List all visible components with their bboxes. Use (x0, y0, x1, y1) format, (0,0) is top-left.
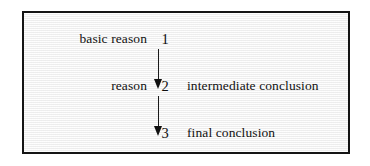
row-2-right-label: intermediate conclusion (183, 78, 348, 94)
diagram-row-3: 3 final conclusion (24, 122, 348, 144)
diagram-row-2: reason 2 intermediate conclusion (24, 75, 348, 97)
row-1-node-number: 1 (147, 31, 183, 48)
diagram-row-1: basic reason 1 (24, 28, 348, 50)
row-3-right-label: final conclusion (183, 125, 348, 141)
figure-canvas: basic reason 1 reason 2 intermediate con… (0, 0, 370, 166)
row-3-node-number: 3 (147, 125, 183, 142)
argument-structure-diagram: basic reason 1 reason 2 intermediate con… (22, 11, 350, 154)
row-1-left-label: basic reason (24, 31, 147, 47)
row-2-node-number: 2 (147, 78, 183, 95)
row-2-left-label: reason (24, 78, 147, 94)
